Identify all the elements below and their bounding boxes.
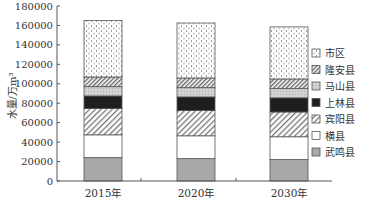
y-tick-label: 120000 <box>15 59 53 70</box>
legend-label: 宾阳县 <box>325 113 355 125</box>
legend-item: 宾阳县 <box>312 113 355 125</box>
bar-segment-马山县 <box>270 89 308 98</box>
y-tick-label: 100000 <box>15 78 53 89</box>
x-category-label: 2015年 <box>85 187 122 199</box>
legend-swatch-icon <box>312 99 320 107</box>
bar-2015年 <box>84 21 122 181</box>
bar-segment-隆安县 <box>177 78 215 88</box>
x-category-label: 2020年 <box>178 187 215 199</box>
y-tick-label: 80000 <box>21 98 53 109</box>
bar-segment-宾阳县 <box>270 112 308 137</box>
y-tick-label: 40000 <box>21 137 53 148</box>
bar-segment-隆安县 <box>84 77 122 87</box>
legend-item: 横县 <box>312 130 345 142</box>
legend-item: 隆安县 <box>312 64 355 76</box>
y-tick-label: 140000 <box>15 39 53 50</box>
legend-swatch-icon <box>312 66 320 74</box>
bar-segment-马山县 <box>177 88 215 97</box>
bar-segment-上林县 <box>270 98 308 112</box>
legend-item: 上林县 <box>312 97 355 109</box>
bar-segment-上林县 <box>84 96 122 109</box>
bar-segment-马山县 <box>84 87 122 96</box>
bar-segment-横县 <box>270 137 308 160</box>
legend-item: 马山县 <box>312 81 355 92</box>
legend-swatch-icon <box>312 148 320 156</box>
stacked-bar-chart: 0200004000060000800001000001200001400001… <box>0 0 374 208</box>
y-tick-label: 20000 <box>21 156 53 167</box>
legend-label: 横县 <box>325 130 345 142</box>
legend: 市区隆安县马山县上林县宾阳县横县武鸣县 <box>312 47 355 158</box>
bars <box>84 21 308 181</box>
y-axis: 0200004000060000800001000001200001400001… <box>15 1 60 187</box>
bar-segment-武鸣县 <box>270 160 308 181</box>
bar-segment-市区 <box>270 27 308 79</box>
y-tick-label: 0 <box>47 176 53 187</box>
x-category-label: 2030年 <box>271 187 308 199</box>
x-axis: 2015年2020年2030年 <box>57 178 332 199</box>
bar-segment-武鸣县 <box>84 158 122 181</box>
legend-item: 市区 <box>312 47 345 59</box>
bar-2030年 <box>270 27 308 181</box>
bar-segment-隆安县 <box>270 79 308 89</box>
legend-label: 武鸣县 <box>325 146 355 158</box>
legend-label: 马山县 <box>325 81 355 92</box>
bar-segment-武鸣县 <box>177 159 215 181</box>
bar-segment-横县 <box>84 135 122 158</box>
bar-segment-市区 <box>177 23 215 78</box>
bar-2020年 <box>177 23 215 181</box>
bar-segment-宾阳县 <box>84 109 122 135</box>
legend-swatch-icon <box>312 49 320 57</box>
y-tick-label: 180000 <box>15 1 53 12</box>
bar-segment-宾阳县 <box>177 111 215 136</box>
bar-segment-市区 <box>84 21 122 77</box>
legend-label: 上林县 <box>325 97 355 109</box>
y-tick-label: 60000 <box>21 117 53 128</box>
legend-swatch-icon <box>312 115 320 123</box>
bar-segment-横县 <box>177 136 215 159</box>
legend-swatch-icon <box>312 82 320 90</box>
y-tick-label: 160000 <box>15 20 53 31</box>
legend-item: 武鸣县 <box>312 146 355 158</box>
legend-label: 市区 <box>325 47 345 59</box>
legend-swatch-icon <box>312 132 320 140</box>
y-axis-label: 水量/万m³ <box>7 73 18 120</box>
bar-segment-上林县 <box>177 97 215 111</box>
legend-label: 隆安县 <box>325 64 355 76</box>
